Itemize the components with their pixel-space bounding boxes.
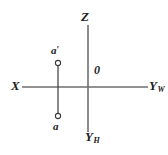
projection-diagram: Z X YW YH 0 a′ a	[0, 0, 168, 155]
point-label-a-prime: a′	[51, 45, 59, 56]
axis-label-y-h-base: Y	[85, 129, 93, 144]
point-label-a: a	[53, 121, 59, 132]
point-marker-a-prime	[55, 60, 60, 65]
axis-label-y-h-subscript: H	[93, 136, 99, 145]
axis-label-y-w-base: Y	[149, 78, 157, 93]
origin-label: 0	[94, 64, 100, 76]
axis-label-y-w-subscript: W	[157, 85, 164, 94]
axis-label-x: X	[11, 79, 20, 92]
point-label-a-prime-base: a	[51, 44, 57, 56]
axis-label-y-h: YH	[85, 130, 99, 143]
point-marker-a	[55, 113, 60, 118]
prime-mark-icon: ′	[57, 45, 60, 55]
axis-label-z: Z	[81, 10, 89, 23]
axis-label-y-w: YW	[149, 79, 164, 92]
